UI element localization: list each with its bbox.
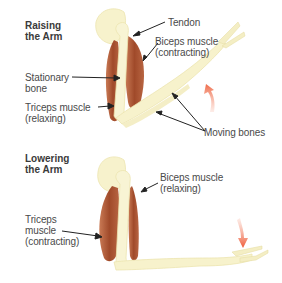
tendon-label: Tendon bbox=[168, 17, 200, 28]
biceps-contracting-label: Biceps muscle (contracting) bbox=[155, 36, 218, 58]
biceps-muscle-shape bbox=[125, 36, 144, 110]
biceps-muscle-shape bbox=[129, 186, 139, 261]
triceps-contracting-label: Triceps muscle (contracting) bbox=[25, 214, 79, 247]
downward-motion-arrow bbox=[237, 218, 248, 248]
biceps-relaxing-label: Biceps muscle (relaxing) bbox=[160, 172, 223, 194]
moving-bones-label: Moving bones bbox=[204, 127, 265, 138]
stationary-bone-label: Stationary bone bbox=[25, 72, 69, 94]
triceps-relaxing-label: Triceps muscle (relaxing) bbox=[25, 102, 90, 124]
raising-heading: Raising the Arm bbox=[25, 20, 62, 42]
arm-muscle-diagram: Raising the Arm Tendon Biceps muscle (co… bbox=[0, 0, 282, 283]
lowering-heading: Lowering the Arm bbox=[25, 153, 69, 175]
upward-motion-arrow bbox=[204, 84, 215, 112]
